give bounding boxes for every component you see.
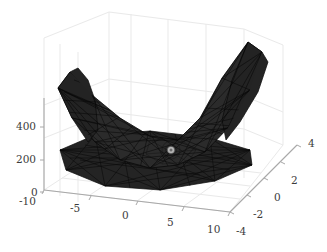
z-tick-label-400: 400	[16, 121, 36, 132]
x-tick-label-10: 10	[207, 224, 220, 235]
z-tick-label-200: 200	[16, 154, 36, 165]
x-tick-label-minus5: -5	[70, 203, 80, 214]
y-tick-label-4: 4	[308, 138, 315, 149]
figure-3d-surface-plot: 400 200 0 -10 -5 0 5 10 -4 -2 0 2 4	[0, 0, 327, 252]
x-tick-label-minus10: -10	[19, 196, 36, 207]
y-tick-label-2: 2	[291, 175, 298, 186]
z-axis-ticks	[40, 127, 44, 192]
x-tick-label-0: 0	[122, 210, 129, 221]
x-tick-label-5: 5	[167, 217, 174, 228]
plot-canvas	[0, 0, 327, 252]
mesh-refinement-cluster	[167, 146, 174, 153]
y-tick-label-minus4: -4	[236, 226, 246, 237]
y-tick-label-0: 0	[274, 192, 281, 203]
y-tick-label-minus2: -2	[253, 209, 263, 220]
